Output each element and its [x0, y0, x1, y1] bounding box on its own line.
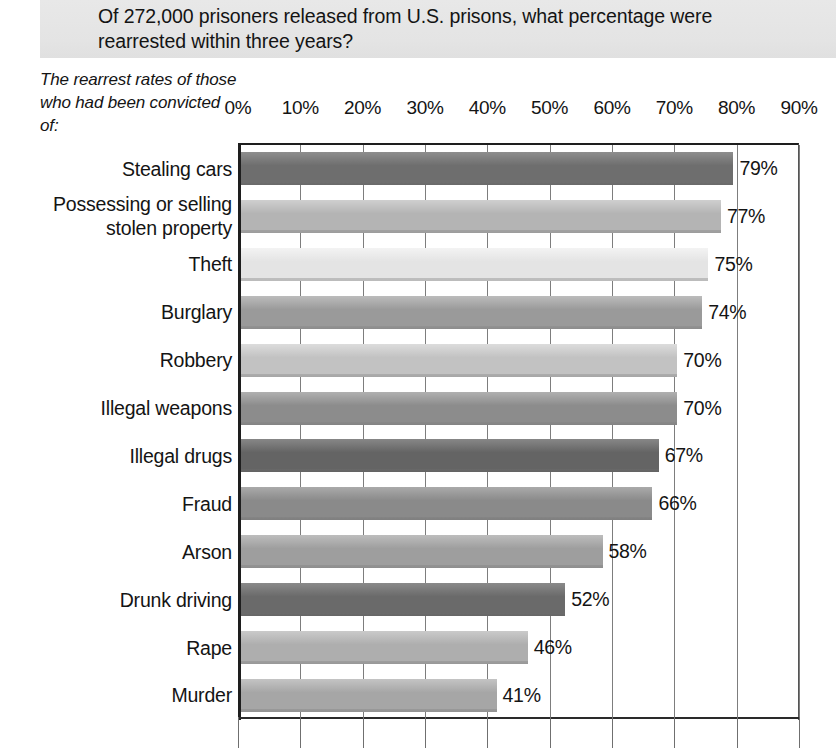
x-tick-label-90: 90% [780, 97, 817, 119]
bar-value-label: 79% [739, 152, 777, 185]
category-label: Illegal weapons [101, 396, 232, 420]
category-label: Fraud [182, 492, 232, 516]
x-tick-label-50: 50% [531, 97, 568, 119]
x-tickmark-30 [425, 717, 426, 748]
bar-row: Possessing or selling stolen property77% [0, 191, 836, 239]
x-tick-label-80: 80% [718, 97, 755, 119]
x-tickmark-60 [612, 717, 613, 748]
x-tickmark-10 [300, 717, 301, 748]
bar [241, 583, 565, 616]
x-tickmark-70 [674, 717, 675, 748]
category-label: Possessing or selling stolen property [53, 192, 232, 240]
category-label: Burglary [161, 300, 232, 324]
bar [241, 344, 677, 377]
bar-row: Murder41% [0, 670, 836, 718]
x-tick-label-60: 60% [593, 97, 630, 119]
x-tick-label-10: 10% [282, 97, 319, 119]
bar-row: Illegal drugs67% [0, 430, 836, 478]
x-tickmark-40 [487, 717, 488, 748]
bar [241, 296, 702, 329]
x-tickmark-90 [799, 717, 800, 748]
bar-row: Rape46% [0, 622, 836, 670]
x-tickmark-20 [363, 717, 364, 748]
bar-row: Illegal weapons70% [0, 383, 836, 431]
bar-value-label: 67% [665, 439, 703, 472]
bar [241, 200, 721, 233]
bar-value-label: 70% [683, 392, 721, 425]
bar-value-label: 77% [727, 200, 765, 233]
bar [241, 392, 677, 425]
bar [241, 679, 497, 712]
category-label: Murder [171, 683, 232, 707]
bar-value-label: 70% [683, 344, 721, 377]
category-label: Drunk driving [120, 588, 232, 612]
x-tick-label-70: 70% [656, 97, 693, 119]
bar-value-label: 46% [534, 631, 572, 664]
category-label: Theft [189, 252, 232, 276]
x-tickmark-0 [238, 717, 239, 748]
category-label: Rape [186, 636, 232, 660]
category-label: Robbery [160, 348, 232, 372]
category-label: Arson [182, 540, 232, 564]
bar-row: Arson58% [0, 526, 836, 574]
x-tick-label-20: 20% [344, 97, 381, 119]
bar-value-label: 58% [609, 535, 647, 568]
category-label: Illegal drugs [129, 444, 232, 468]
bar-value-label: 41% [503, 679, 541, 712]
x-tickmark-80 [737, 717, 738, 748]
bar [241, 248, 708, 281]
x-tick-label-30: 30% [406, 97, 443, 119]
bar [241, 439, 659, 472]
x-axis-tick-labels: 0%10%20%30%40%50%60%70%80%90% [0, 97, 836, 123]
bar-value-label: 75% [714, 248, 752, 281]
bar-chart: 0%10%20%30%40%50%60%70%80%90% Stealing c… [0, 0, 836, 751]
bar-row: Robbery70% [0, 335, 836, 383]
bar-row: Burglary74% [0, 287, 836, 335]
bar-row: Drunk driving52% [0, 574, 836, 622]
category-label: Stealing cars [122, 157, 232, 181]
bar [241, 535, 603, 568]
bar [241, 152, 733, 185]
bar-value-label: 66% [658, 487, 696, 520]
x-tick-label-0: 0% [225, 97, 252, 119]
bar [241, 631, 528, 664]
x-tick-label-40: 40% [469, 97, 506, 119]
bar-value-label: 74% [708, 296, 746, 329]
bar [241, 487, 652, 520]
x-tickmark-50 [550, 717, 551, 748]
bar-row: Theft75% [0, 239, 836, 287]
bar-value-label: 52% [571, 583, 609, 616]
bar-row: Stealing cars79% [0, 143, 836, 191]
bar-row: Fraud66% [0, 478, 836, 526]
